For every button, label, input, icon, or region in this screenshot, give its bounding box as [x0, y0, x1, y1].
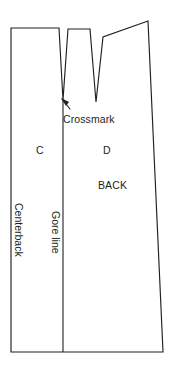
back-label: BACK [98, 180, 127, 191]
centerback-label: Centerback [14, 203, 25, 257]
pattern-outline-drawing [0, 0, 174, 368]
pattern-outline-shape [11, 21, 163, 352]
crossmark-label: Crossmark [63, 114, 115, 125]
sewing-pattern-diagram: Crossmark C D BACK Centerback Gore line [0, 0, 174, 368]
gore-line-label: Gore line [51, 211, 62, 254]
panel-d-label: D [103, 145, 111, 156]
panel-c-label: C [36, 145, 44, 156]
